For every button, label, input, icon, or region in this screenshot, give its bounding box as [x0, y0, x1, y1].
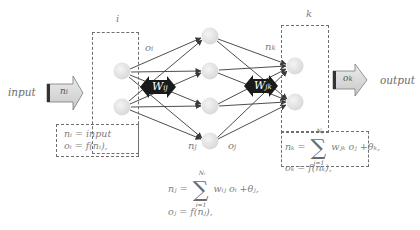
output-text: output — [380, 74, 415, 86]
output-arrow-label: ok — [343, 73, 353, 83]
hidden-node — [202, 98, 219, 115]
output-layer-box — [281, 25, 329, 133]
sum-icon: ∑Nⱼj=1 — [311, 134, 327, 162]
input-formula-line1: nᵢ = input — [64, 128, 111, 140]
layer-k-label: k — [306, 9, 312, 19]
hidden-formula-line2: oⱼ = f(nⱼ), — [168, 206, 259, 218]
weight-ij-label: Wij — [152, 80, 168, 93]
hidden-layer-formula: nⱼ = ∑Nᵢi=1 wᵢⱼ oᵢ +θⱼ, oⱼ = f(nⱼ), — [168, 176, 259, 217]
edge-label-oj: oj — [228, 141, 236, 151]
sum-icon: ∑Nᵢi=1 — [193, 176, 209, 204]
input-layer-formula: nᵢ = input oᵢ = f(nᵢ), — [64, 128, 111, 152]
hidden-layer-nodes — [202, 28, 219, 150]
hidden-node — [202, 63, 219, 80]
hidden-node — [202, 133, 219, 150]
output-layer-formula: nₖ = ∑Nⱼj=1 wⱼₖ oⱼ +θₖ, oₖ = f(nₖ), — [285, 134, 380, 173]
edge-label-nk: nk — [265, 42, 276, 52]
output-formula-line2: oₖ = f(nₖ), — [285, 162, 380, 174]
input-text: input — [8, 86, 36, 98]
input-arrow-label: ni — [60, 86, 68, 96]
input-formula-line2: oᵢ = f(nᵢ), — [64, 140, 111, 152]
edge-label-oi: oi — [145, 43, 153, 53]
hidden-node — [202, 28, 219, 45]
edge-label-nj: nj — [188, 141, 197, 151]
weight-jk-label: Wjk — [254, 79, 272, 92]
layer-i-label: i — [116, 14, 119, 24]
